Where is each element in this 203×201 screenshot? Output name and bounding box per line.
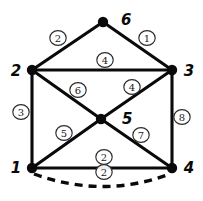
weight-text-1-5: 5 [61,128,67,139]
graph-diagram: 6 2 3 5 1 4 2 1 4 6 [0,0,203,201]
weight-text-2-1: 3 [18,107,24,118]
vertex-dot-2[interactable] [27,65,37,75]
vertex-dot-5[interactable] [96,114,106,124]
vertex-label-3: 3 [184,62,194,80]
weight-text-5-4: 7 [138,130,144,141]
weight-text-6-3: 1 [144,33,150,44]
weight-label-layer: 2 1 4 6 4 3 8 [13,31,190,180]
vertex-dot-1[interactable] [27,163,37,173]
weight-text-2-3: 4 [102,55,108,66]
vertex-label-4: 4 [183,159,194,177]
graph-canvas: 6 2 3 5 1 4 2 1 4 6 [0,0,203,201]
weight-badge-2-5: 6 [70,83,86,98]
vertex-label-1: 1 [11,159,21,177]
weight-text-5-3: 4 [129,82,135,93]
weight-badge-5-4: 7 [133,128,149,143]
weight-text-1-4-arc: 2 [101,167,107,178]
edge-2-5[interactable] [32,70,101,119]
weight-badge-1-4: 2 [96,150,112,165]
edge-5-3[interactable] [101,70,172,119]
weight-badge-2-1: 3 [13,105,29,120]
weight-badge-1-4-arc: 2 [96,165,112,180]
edge-6-3[interactable] [103,22,172,70]
weight-text-3-4: 8 [179,112,185,123]
weight-badge-6-3: 1 [139,31,155,46]
vertex-label-5: 5 [122,110,132,128]
vertex-dot-6[interactable] [98,17,108,27]
weight-text-1-4: 2 [101,152,107,163]
edge-2-6[interactable] [32,22,103,70]
vertex-dot-3[interactable] [167,65,177,75]
vertex-label-2: 2 [11,62,21,80]
vertex-dot-4[interactable] [167,163,177,173]
weight-text-2-5: 6 [75,85,81,96]
weight-badge-2-6: 2 [50,31,66,46]
weight-badge-5-3: 4 [124,80,140,95]
weight-badge-2-3: 4 [97,53,113,68]
weight-badge-3-4: 8 [174,110,190,125]
vertex-label-6: 6 [121,11,131,29]
weight-badge-1-5: 5 [56,126,72,141]
weight-text-2-6: 2 [55,33,61,44]
